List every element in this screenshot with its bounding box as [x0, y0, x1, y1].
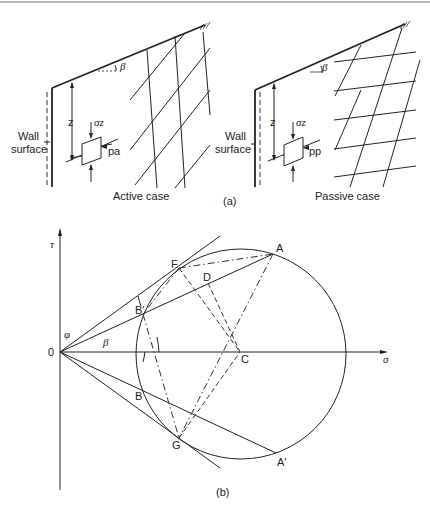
- point-G-label: G: [172, 439, 181, 451]
- point-B-label: B: [135, 390, 142, 402]
- point-F-label: F: [171, 258, 178, 270]
- beta-label: β: [102, 336, 109, 348]
- origin-label: 0: [48, 346, 54, 358]
- beta-arc-lower: [143, 352, 145, 362]
- active-case-label: Active case: [113, 190, 169, 202]
- pp-label: pp: [309, 145, 321, 157]
- surface-label: surface: [215, 143, 251, 155]
- panel-a-label: (a): [223, 195, 236, 207]
- line-D-C: [208, 283, 240, 352]
- passive-case-label: Passive case: [315, 190, 380, 202]
- wall-label: Wall: [225, 130, 246, 142]
- depth-label: z: [270, 116, 276, 128]
- point-C-label: C: [241, 353, 249, 365]
- ground-slope: [255, 24, 405, 90]
- slip-lines-inclined: [130, 33, 210, 188]
- sigma-z-label: σz: [94, 116, 104, 128]
- phi-label: φ: [64, 328, 70, 340]
- wall-label: Wall: [18, 130, 39, 142]
- pa-label: pa: [108, 145, 121, 157]
- panel-a-passive: β z σz pp Wall surface Passi: [215, 21, 420, 202]
- figure-caption-cut-off: [0, 500, 430, 510]
- beta-line-upper: [60, 254, 273, 352]
- panel-b-label: (b): [216, 486, 229, 498]
- line-G-C: [179, 352, 240, 438]
- point-D-label: D: [203, 271, 211, 283]
- panel-b-mohr-diagram: τ σ 0 φ β A F D B′ C B G A′: [48, 228, 389, 490]
- rankine-earth-pressure-figure: β z σz pa Wall surface: [0, 0, 430, 510]
- slip-lines-steep: [147, 32, 210, 188]
- beta-line-lower: [60, 352, 276, 453]
- line-Bprime-G: [143, 314, 179, 438]
- surface-label: surface: [11, 143, 47, 155]
- arrow-up-icon: [291, 165, 295, 171]
- ground-slope: [52, 25, 205, 88]
- beta-label: β: [119, 60, 126, 72]
- failure-envelope-lower: [60, 352, 220, 468]
- arrow-up-icon: [89, 164, 93, 170]
- tau-label: τ: [50, 238, 55, 250]
- beta-arc: [115, 65, 116, 71]
- failure-envelope-upper: [60, 236, 220, 352]
- point-Bprime-label: B′: [135, 304, 144, 316]
- arrow-down-icon: [291, 134, 295, 140]
- sigma-label: σ: [383, 353, 389, 365]
- arrow-down-icon: [89, 133, 93, 139]
- beta-label: β: [321, 61, 328, 73]
- arrow-up-icon: [272, 83, 276, 89]
- line-F-Bprime: [143, 268, 179, 314]
- depth-label: z: [68, 116, 74, 128]
- beta-arc: [157, 337, 159, 352]
- sigma-z-label: σz: [296, 116, 306, 128]
- point-Aprime-label: A′: [277, 456, 286, 468]
- slip-lines-steep: [335, 28, 420, 187]
- line-A-G: [179, 254, 273, 438]
- panel-a-active: β z σz pa Wall surface: [11, 22, 210, 202]
- point-A-label: A: [276, 242, 284, 254]
- soil-element: [82, 137, 101, 165]
- arrow-up-icon: [58, 228, 62, 236]
- soil-element: [284, 137, 303, 166]
- arrow-up-icon: [70, 82, 74, 88]
